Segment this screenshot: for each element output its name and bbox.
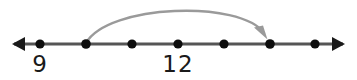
axis-left-arrowhead-icon	[12, 37, 25, 51]
number-line-dot	[310, 39, 319, 48]
jump-arc-arrowhead-icon	[254, 26, 268, 40]
number-line-dot	[127, 39, 136, 48]
jump-arc-group	[86, 11, 268, 43]
number-line-dot	[81, 39, 91, 49]
number-line-dot	[35, 39, 44, 48]
tick-label-first: 9	[32, 53, 48, 76]
jump-arc	[86, 11, 264, 43]
number-line-figure: 9 12	[0, 0, 357, 80]
axis-right-arrowhead-icon	[332, 37, 345, 51]
number-line-dot	[265, 39, 275, 49]
tick-label-second: 12	[162, 53, 193, 76]
number-line-dot	[173, 39, 182, 48]
number-line-dot	[219, 39, 228, 48]
